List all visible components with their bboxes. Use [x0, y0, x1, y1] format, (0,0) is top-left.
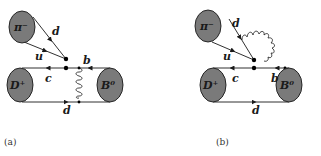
vertex-dot: [78, 67, 81, 70]
b-meson-label: B⁰: [279, 79, 294, 92]
panel-b: π⁻ D⁺ B⁰ d u b c d (b): [195, 10, 302, 147]
quark-label-c: c: [45, 72, 52, 85]
quark-label-b: b: [271, 72, 279, 85]
vertex-dot: [64, 66, 68, 70]
pion-u-quark-line: [212, 42, 254, 60]
d-meson-label: D⁺: [202, 79, 219, 92]
quark-label-d-lower: d: [63, 104, 71, 117]
caption-b: (b): [216, 137, 229, 147]
vertex-dot: [252, 58, 256, 62]
quark-label-u: u: [35, 50, 43, 63]
pion-label: π⁻: [199, 20, 214, 33]
quark-label-u: u: [223, 50, 231, 63]
d-meson-label: D⁺: [9, 79, 26, 92]
vertex-dot: [64, 57, 68, 61]
caption-a: (a): [4, 137, 16, 147]
quark-label-d-lower: d: [252, 104, 260, 117]
gluon-line: [76, 68, 82, 98]
panel-a: π⁻ D⁺ B⁰ d u b c d (a): [4, 11, 123, 147]
quark-label-d: d: [232, 17, 240, 30]
quark-label-c: c: [232, 72, 239, 85]
b-meson-label: B⁰: [100, 79, 115, 92]
quark-label-d: d: [52, 25, 60, 38]
vertex-dot: [252, 66, 256, 70]
feynman-diagrams: π⁻ D⁺ B⁰ d u b c d (a) π⁻: [0, 0, 321, 156]
vertex-dot: [78, 101, 81, 104]
quark-label-b: b: [83, 54, 91, 67]
pion-label: π⁻: [13, 21, 28, 34]
